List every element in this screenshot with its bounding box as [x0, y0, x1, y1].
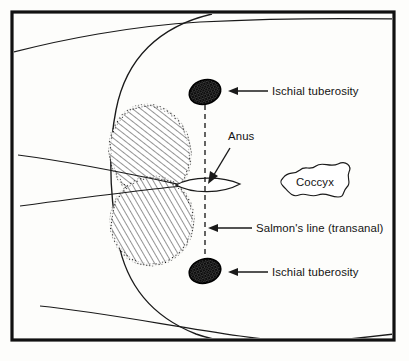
label-anus: Anus — [228, 130, 255, 142]
label-coccyx: Coccyx — [296, 176, 334, 188]
figure-canvas: Ischial tuberosity Ischial tuberosity An… — [0, 0, 409, 361]
label-ischial-tuberosity-bottom: Ischial tuberosity — [272, 266, 359, 278]
anatomy-figure: Ischial tuberosity Ischial tuberosity An… — [0, 0, 409, 361]
label-salmons-line: Salmon's line (transanal) — [256, 222, 384, 234]
label-ischial-tuberosity-top: Ischial tuberosity — [272, 85, 359, 97]
